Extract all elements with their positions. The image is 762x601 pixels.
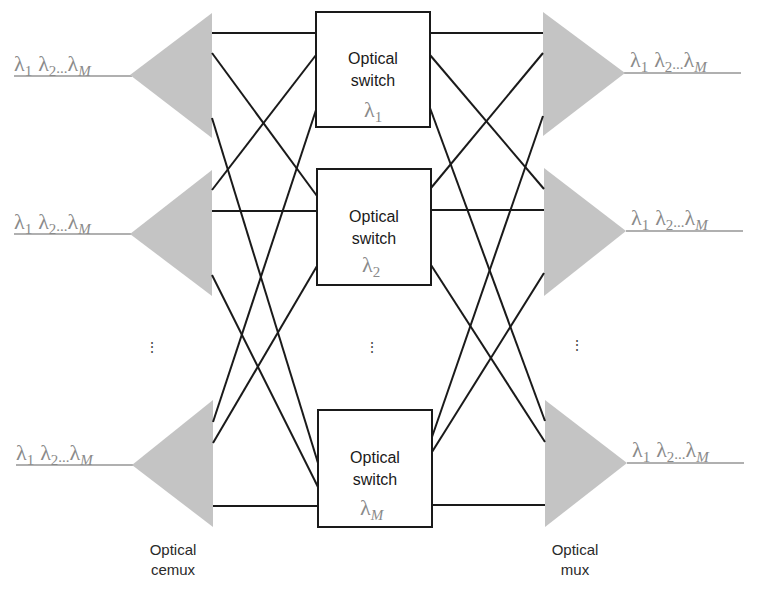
switch-1-label-line1: Optical xyxy=(348,50,398,67)
switch-m-label-line1: Optical xyxy=(350,449,400,466)
switch-2-label-line2: switch xyxy=(352,230,396,247)
wavelength-routing-diagram: Optical switch λ1 Optical switch λ2 Opti… xyxy=(0,0,762,601)
switch-2-label-line1: Optical xyxy=(349,208,399,225)
optical-mux-group xyxy=(543,12,627,527)
input-fibers xyxy=(14,76,134,465)
mux-triangle-2 xyxy=(544,168,626,296)
ellipsis-demux: ⋮ xyxy=(145,339,159,355)
input-wavelengths-2: λ1λ2...λM xyxy=(14,209,92,237)
demux-label-line2: cemux xyxy=(151,561,196,578)
output-wavelengths-2: λ1λ2...λM xyxy=(631,205,709,233)
switch-to-mux-connections xyxy=(430,33,545,505)
demux-label-line1: Optical xyxy=(150,541,197,558)
demux-to-switch-connections xyxy=(212,33,318,506)
input-wavelengths-m: λ1λ2...λM xyxy=(16,440,94,468)
demux-triangle-m xyxy=(132,400,213,527)
connection-sm-m1 xyxy=(432,116,543,437)
connection-s1-mm xyxy=(430,108,545,421)
switch-1-label-line2: switch xyxy=(351,72,395,89)
ellipsis-mux: ⋮ xyxy=(570,337,584,353)
connection-dm-s1 xyxy=(213,110,316,422)
demux-triangle-1 xyxy=(130,13,212,138)
connection-d2-sm xyxy=(212,275,318,487)
switch-m-label-line2: switch xyxy=(353,471,397,488)
mux-label-line2: mux xyxy=(561,561,590,578)
output-wavelengths-m: λ1λ2...λM xyxy=(632,437,710,465)
mux-label-line1: Optical xyxy=(552,541,599,558)
output-wavelengths-1: λ1λ2...λM xyxy=(630,47,708,75)
optical-switch-2: Optical switch λ2 xyxy=(317,169,431,285)
connection-s2-mm xyxy=(431,265,545,442)
demux-triangle-2 xyxy=(130,170,212,296)
ellipsis-switches: ⋮ xyxy=(365,339,379,355)
connection-sm-m2 xyxy=(432,273,544,452)
mux-triangle-m xyxy=(545,400,627,527)
optical-switch-m: Optical switch λM xyxy=(318,410,432,527)
optical-switch-1: Optical switch λ1 xyxy=(316,12,430,127)
optical-demux-group xyxy=(130,13,213,527)
output-fibers xyxy=(624,73,744,463)
mux-triangle-1 xyxy=(543,12,625,136)
input-wavelengths-1: λ1λ2...λM xyxy=(14,51,92,79)
